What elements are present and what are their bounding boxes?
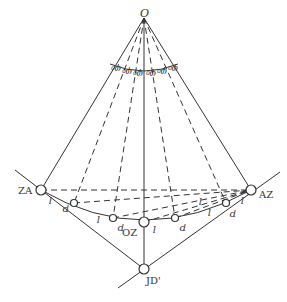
bottom-point-label: JD' [145, 275, 161, 286]
projection-diagram: φ₀ φ₀ φ₀ φ₀ φ₀ φ₀ O ZA AZ OZ JD' p p p p… [0, 0, 287, 302]
angle-label: φ₀ [111, 64, 121, 74]
apex-label: O [140, 7, 149, 20]
angle-label: φ₀ [133, 69, 143, 79]
l-label: l [49, 195, 52, 206]
l-label: l [241, 195, 244, 206]
ray-dashed-1 [74, 18, 144, 203]
l-label: l [97, 214, 100, 225]
p-label: p [179, 224, 186, 235]
angle-label: φ₀ [146, 69, 156, 79]
angle-label: φ₀ [168, 64, 178, 74]
point-right [246, 185, 256, 195]
ray-right-solid [144, 18, 251, 190]
ray-dashed-2 [113, 18, 144, 218]
point-center [139, 217, 149, 227]
p-label: p [62, 205, 69, 216]
angle-label: φ₀ [122, 67, 132, 77]
l-label: l [199, 196, 202, 207]
l-label: l [208, 207, 211, 218]
p-label: p [229, 210, 236, 221]
ray-dashed-3 [144, 18, 175, 218]
dashed-chord-4 [175, 190, 251, 218]
left-leg [15, 170, 144, 269]
point-p [110, 215, 117, 222]
p-label: p [117, 224, 124, 235]
point-p [172, 215, 179, 222]
angle-label: φ₀ [157, 67, 167, 77]
point-p [71, 200, 78, 207]
diagram-canvas: φ₀ φ₀ φ₀ φ₀ φ₀ φ₀ O ZA AZ OZ JD' p p p p… [0, 0, 287, 302]
point-bottom [139, 264, 149, 274]
left-point-label: ZA [18, 185, 33, 196]
point-p [223, 200, 230, 207]
ray-dashed-4 [144, 18, 226, 203]
ray-left-solid [41, 18, 144, 190]
l-label: l [153, 224, 156, 235]
right-point-label: AZ [258, 189, 273, 200]
point-left [36, 185, 46, 195]
